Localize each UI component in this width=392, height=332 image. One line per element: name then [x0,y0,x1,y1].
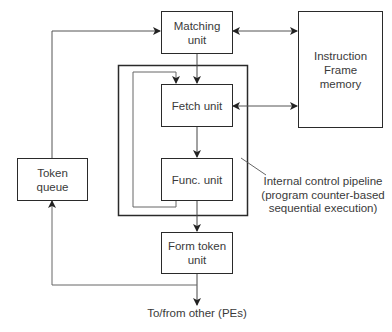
instruction-frame-memory-label: Instruction Frame memory [314,49,367,91]
pipeline-annotation: Internal control pipeline (program count… [255,175,391,216]
token-queue-box: Token queue [17,158,88,201]
matching-unit-box: Matching unit [161,11,233,54]
matching-unit-label: Matching unit [174,19,221,47]
fetch-unit-box: Fetch unit [161,84,233,127]
form-token-unit-box: Form token unit [161,232,233,274]
edge-tokenqueue-matching [52,31,160,158]
token-queue-label: Token queue [37,166,69,194]
func-unit-box: Func. unit [161,158,233,201]
fetch-unit-label: Fetch unit [172,99,223,113]
form-token-unit-label: Form token unit [168,239,226,267]
instruction-frame-memory-box: Instruction Frame memory [298,11,383,128]
annotation-leader-line [241,158,266,175]
func-unit-label: Func. unit [172,173,223,187]
external-pes-label: To/from other (PEs) [132,307,262,321]
